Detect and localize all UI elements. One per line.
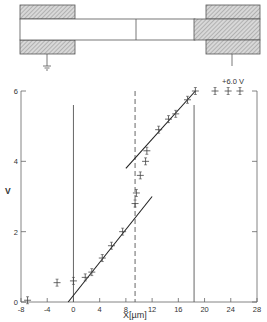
voltage-label: +6.0 V bbox=[222, 77, 244, 86]
x-tick-label: 28 bbox=[253, 305, 261, 314]
y-tick-label: 4 bbox=[14, 157, 18, 166]
y-tick-label: 6 bbox=[14, 87, 18, 96]
x-tick-label: 24 bbox=[227, 305, 235, 314]
right-bottom-electrode bbox=[206, 40, 260, 54]
chart: -8-404812162024280246 bbox=[14, 87, 261, 314]
x-tick-label: 12 bbox=[148, 305, 156, 314]
x-tick-label: 0 bbox=[71, 305, 75, 314]
y-tick-label: 2 bbox=[14, 228, 18, 237]
x-tick-label: -8 bbox=[18, 305, 25, 314]
x-axis-label: X[µm] bbox=[123, 310, 147, 320]
left-bottom-electrode bbox=[20, 40, 75, 54]
right-middle-electrode bbox=[194, 19, 260, 40]
y-tick-label: 0 bbox=[14, 298, 18, 307]
channel bbox=[20, 19, 195, 40]
right-top-electrode bbox=[206, 5, 260, 19]
x-tick-label: 20 bbox=[200, 305, 208, 314]
x-tick-label: -4 bbox=[44, 305, 51, 314]
device-diagram: +6.0 V bbox=[20, 5, 260, 86]
ground-icon bbox=[43, 54, 51, 70]
left-top-electrode bbox=[20, 5, 75, 19]
y-axis-label: V bbox=[5, 186, 11, 196]
x-tick-label: 4 bbox=[98, 305, 102, 314]
figure: +6.0 V -8-404812162024280246 V X[µm] bbox=[0, 0, 267, 322]
x-tick-label: 16 bbox=[174, 305, 182, 314]
